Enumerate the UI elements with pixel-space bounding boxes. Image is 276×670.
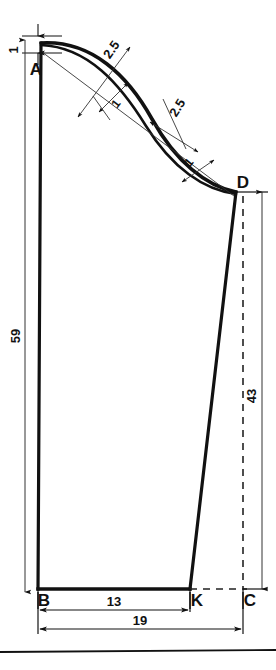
point-label-k: K <box>191 591 204 610</box>
top-offset-label: 1 <box>6 46 21 53</box>
curve-offset-label-2: 2.5 <box>166 96 188 119</box>
drawing-canvas: 2.5 1 2.5 1 1 59 43 <box>0 0 276 670</box>
bottom-inner-label: 13 <box>107 594 121 609</box>
dashed-reference-lines <box>190 196 247 589</box>
point-label-b: B <box>38 591 50 610</box>
point-label-ticks <box>38 592 243 609</box>
curve-tick-label-2: 1 <box>181 155 196 169</box>
point-label-d: D <box>237 173 249 192</box>
bottom-separator-rule <box>0 650 276 652</box>
bottom-outer-label: 19 <box>133 613 147 628</box>
point-label-c: C <box>244 591 256 610</box>
chord-construction-line <box>42 52 234 196</box>
right-height-label: 43 <box>244 389 259 403</box>
pattern-outline <box>38 43 236 589</box>
point-label-a: A <box>30 60 42 79</box>
left-height-label: 59 <box>8 329 23 343</box>
curve-offset-label-1: 2.5 <box>100 38 123 61</box>
curve-tick-label-1: 1 <box>108 96 123 110</box>
